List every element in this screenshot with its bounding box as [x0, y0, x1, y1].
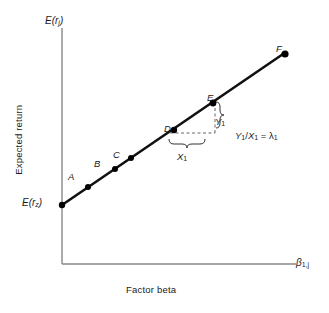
- slope-equation: Y1/X1 = λ1: [235, 131, 278, 141]
- data-point-b: [112, 166, 118, 172]
- point-label-c: C: [113, 150, 120, 160]
- point-label-d: D: [164, 124, 171, 134]
- y-intercept-label: E(rz): [22, 198, 42, 208]
- y-axis-variable: E(rj): [45, 16, 63, 26]
- run-brace: [169, 139, 205, 148]
- point-label-f: F: [276, 44, 282, 54]
- rise-label: Y1: [215, 117, 225, 127]
- point-label-b: B: [94, 159, 100, 169]
- data-point-d: [171, 127, 177, 133]
- x-axis-title: Factor beta: [126, 285, 176, 295]
- point-label-e: E: [207, 93, 213, 103]
- data-point-c: [128, 155, 134, 161]
- data-point-a: [85, 184, 91, 190]
- data-point-f: [281, 50, 288, 57]
- data-point-intercept: [59, 202, 65, 208]
- x-axis-variable: β1,j: [296, 258, 309, 268]
- run-label: X1: [177, 152, 187, 162]
- point-label-a: A: [68, 172, 74, 182]
- y-axis-title: Expected return: [14, 95, 24, 185]
